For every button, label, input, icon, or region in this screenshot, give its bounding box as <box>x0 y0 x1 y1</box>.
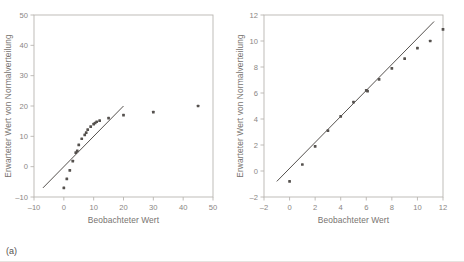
x-axis-title: Beobachteter Wert <box>88 215 160 225</box>
data-point <box>80 137 83 140</box>
data-point <box>197 105 200 108</box>
data-point <box>95 120 98 123</box>
data-point <box>77 143 80 146</box>
y-tick-label: 30 <box>20 71 28 80</box>
x-tick-label: 6 <box>364 203 368 212</box>
data-point <box>152 111 155 114</box>
x-tick-label: 8 <box>390 203 394 212</box>
data-point <box>352 101 355 104</box>
data-point <box>403 57 406 60</box>
x-tick-label: 2 <box>313 203 317 212</box>
data-point <box>89 125 92 128</box>
y-tick-label: 6 <box>254 89 258 98</box>
x-tick-label: 4 <box>339 203 343 212</box>
data-point <box>98 119 101 122</box>
y-tick-label: 0 <box>254 167 258 176</box>
data-point <box>314 145 317 148</box>
data-point <box>416 47 419 50</box>
x-tick-label: 12 <box>439 203 447 212</box>
x-tick-label: 30 <box>149 203 157 212</box>
x-tick-label: –10 <box>28 203 41 212</box>
x-tick-label: 20 <box>119 203 127 212</box>
data-point <box>68 169 71 172</box>
y-tick-label: 20 <box>20 102 28 111</box>
x-tick-label: 40 <box>179 203 187 212</box>
y-tick-label: 40 <box>20 41 28 50</box>
data-point <box>62 187 65 190</box>
data-point <box>327 129 330 132</box>
data-point <box>442 28 445 31</box>
data-point <box>429 40 432 43</box>
x-tick-label: –2 <box>260 203 268 212</box>
y-tick-label: 10 <box>250 37 258 46</box>
y-tick-label: –2 <box>250 193 258 202</box>
x-tick-label: 0 <box>62 203 66 212</box>
reference-line <box>43 106 124 188</box>
panel-caption-a: (a) <box>6 246 17 256</box>
y-axis-title: Erwarteter Wert von Normalverteilung <box>235 34 245 178</box>
y-tick-label: 12 <box>250 11 258 20</box>
x-tick-label: 10 <box>89 203 97 212</box>
x-axis-title: Beobachteter Wert <box>318 215 390 225</box>
y-tick-label: –10 <box>15 193 28 202</box>
y-tick-label: 4 <box>254 115 258 124</box>
data-point <box>301 163 304 166</box>
x-tick-label: 50 <box>209 203 217 212</box>
data-point <box>76 150 79 153</box>
scatter-plot-b: –2024681012–2024681012Beobachteter WertE… <box>232 0 464 240</box>
data-point <box>71 160 74 163</box>
scatter-plot-a: –1001020304050–1001020304050Beobachteter… <box>0 0 232 240</box>
data-point <box>339 115 342 118</box>
y-tick-label: 0 <box>24 162 28 171</box>
reference-line <box>277 22 434 182</box>
data-point <box>122 114 125 117</box>
x-tick-label: 10 <box>413 203 421 212</box>
data-point <box>86 128 89 131</box>
x-tick-label: 0 <box>287 203 291 212</box>
chart-panel-a: –1001020304050–1001020304050Beobachteter… <box>0 0 232 262</box>
data-point <box>366 90 369 93</box>
y-tick-label: 2 <box>254 141 258 150</box>
y-tick-label: 10 <box>20 132 28 141</box>
data-point <box>85 131 88 134</box>
y-tick-label: 8 <box>254 63 258 72</box>
data-point <box>288 180 291 183</box>
data-point <box>107 117 110 120</box>
chart-panel-b: –2024681012–2024681012Beobachteter WertE… <box>232 0 464 262</box>
data-point <box>391 67 394 70</box>
data-point <box>65 177 68 180</box>
y-axis-title: Erwarteter Wert von Normalverteilung <box>3 34 13 178</box>
data-point <box>378 78 381 81</box>
y-tick-label: 50 <box>20 11 28 20</box>
